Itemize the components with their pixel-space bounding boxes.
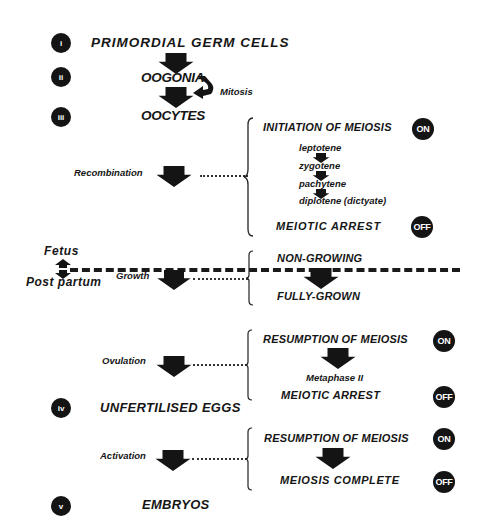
metaphase-ii: Metaphase II — [306, 372, 363, 383]
substage-pachytene: pachytene — [299, 178, 346, 189]
resumption-of-meiosis: RESUMPTION OF MEIOSIS — [263, 333, 408, 345]
mitosis-label: Mitosis — [220, 86, 253, 97]
non-growing: NON-GROWING — [277, 252, 362, 264]
mitosis-loop-arrow-icon — [191, 74, 221, 100]
down-arrow-icon — [156, 270, 192, 290]
on-badge: ON — [412, 118, 434, 140]
meiotic-arrest: MEIOTIC ARREST — [276, 220, 381, 232]
connector-dotted — [200, 175, 248, 177]
stage-embryos: EMBRYOS — [142, 497, 210, 512]
off-badge: OFF — [433, 471, 455, 493]
on-badge: ON — [433, 330, 455, 352]
meiosis-complete: MEIOSIS COMPLETE — [280, 474, 400, 486]
down-arrow-icon — [303, 268, 339, 289]
stage-numeral-iii: iii — [51, 107, 71, 127]
process-recombination: Recombination — [74, 167, 143, 178]
on-badge: ON — [433, 428, 455, 450]
down-arrow-icon — [156, 356, 192, 377]
brace — [245, 329, 253, 401]
connector-dotted — [193, 364, 247, 366]
stage-oocytes: OOCYTES — [141, 108, 205, 123]
stage-numeral-ii: ii — [51, 67, 71, 87]
post-partum-label: Post partum — [26, 275, 102, 289]
fetus-label: Fetus — [44, 244, 79, 258]
process-ovulation: Ovulation — [102, 355, 146, 366]
down-arrow-icon — [158, 87, 194, 108]
resumption-of-meiosis: RESUMPTION OF MEIOSIS — [264, 432, 409, 444]
down-arrow-icon — [155, 450, 191, 471]
process-activation: Activation — [100, 450, 146, 461]
down-arrow-icon — [320, 348, 356, 369]
brace — [246, 250, 254, 306]
meiotic-arrest: MEIOTIC ARREST — [281, 389, 380, 401]
substage-leptotene: leptotene — [299, 142, 341, 153]
substage-zygotene: zygotene — [299, 160, 340, 171]
off-badge: OFF — [411, 216, 433, 238]
fully-grown: FULLY-GROWN — [277, 290, 360, 302]
stage-primordial-germ-cells: PRIMORDIAL GERM CELLS — [91, 35, 290, 50]
stage-numeral-iv: iv — [51, 398, 71, 418]
initiation-of-meiosis: INITIATION OF MEIOSIS — [263, 121, 392, 133]
process-growth: Growth — [116, 270, 149, 281]
brace — [245, 427, 253, 491]
connector-dotted — [192, 458, 247, 460]
off-badge: OFF — [433, 386, 455, 408]
down-arrow-icon — [315, 448, 351, 469]
stage-numeral-i: i — [51, 33, 71, 53]
brace — [244, 117, 254, 237]
down-arrow-icon — [156, 166, 192, 187]
stage-numeral-v: v — [51, 496, 71, 516]
connector-dotted — [193, 278, 248, 280]
substage-diplotene: diplotene (dictyate) — [299, 195, 386, 206]
stage-unfertilised-eggs: UNFERTILISED EGGS — [100, 400, 241, 415]
